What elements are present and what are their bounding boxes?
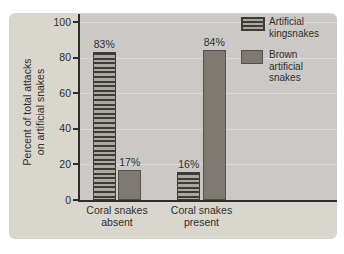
bar-value-label-striped-group1: 83%: [84, 38, 124, 50]
y-tick-80: [73, 57, 79, 59]
bar-value-label-solid-group1: 17%: [110, 156, 150, 168]
y-axis-title-line2: on artificial snakes: [34, 22, 47, 202]
y-tick-60: [73, 92, 79, 94]
y-axis-title: Percent of total attacks on artificial s…: [21, 22, 47, 202]
bar-solid-group2: [203, 50, 226, 200]
bar-striped-group1: [93, 52, 116, 200]
legend-swatch-brown-icon: [241, 50, 263, 64]
category-label-1: Coral snakesabsent: [72, 205, 162, 228]
y-axis-title-line1: Percent of total attacks: [21, 22, 34, 202]
bar-striped-group2: [177, 172, 200, 200]
x-axis-line: [78, 200, 337, 202]
bar-solid-group1: [118, 170, 141, 200]
y-tick-40: [73, 128, 79, 130]
y-tick-100: [73, 21, 79, 23]
y-tick-20: [73, 163, 79, 165]
y-axis-line: [78, 14, 80, 202]
category-label-2: Coral snakespresent: [157, 205, 247, 228]
y-tick-0: [73, 199, 79, 201]
legend-swatch-kingsnakes-icon: [241, 17, 265, 31]
legend-label-1: Artificialkingsnakes: [269, 16, 319, 39]
bar-value-label-striped-group2: 16%: [169, 158, 209, 170]
bar-chart-figure: 020406080100 83%17%16%84% Coral snakesab…: [0, 0, 344, 254]
legend-label-2: Brownartificialsnakes: [269, 49, 303, 84]
bar-value-label-solid-group2: 84%: [194, 36, 234, 48]
